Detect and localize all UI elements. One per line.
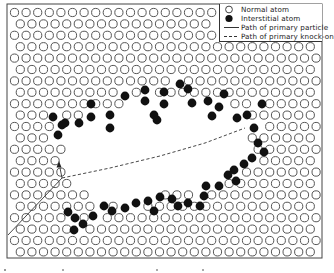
normal-atom: [306, 202, 314, 210]
normal-atom: [231, 236, 239, 244]
interstitial-atom: [202, 182, 211, 191]
normal-atom: [132, 248, 140, 256]
normal-atom: [22, 54, 30, 62]
normal-atom: [300, 100, 308, 108]
normal-atom: [16, 225, 24, 233]
interstitial-atom: [258, 100, 267, 109]
normal-atom: [28, 88, 36, 96]
normal-atom: [213, 202, 221, 210]
normal-atom: [80, 31, 88, 39]
normal-atom: [103, 100, 111, 108]
normal-atom: [306, 179, 314, 187]
normal-atom: [92, 8, 100, 16]
normal-atom: [312, 168, 320, 176]
normal-atom: [306, 248, 314, 256]
normal-atom: [190, 20, 198, 28]
normal-atom: [202, 43, 210, 51]
normal-atom: [277, 145, 285, 153]
normal-atom: [190, 248, 198, 256]
normal-atom: [312, 214, 320, 222]
normal-atom: [63, 88, 71, 96]
normal-atom: [22, 100, 30, 108]
normal-atom: [103, 77, 111, 85]
normal-atom: [266, 168, 274, 176]
normal-atom: [289, 214, 297, 222]
normal-atom: [277, 168, 285, 176]
interstitial-atom: [141, 97, 150, 106]
normal-atom: [80, 54, 88, 62]
normal-atom: [115, 236, 123, 244]
normal-atom: [300, 191, 308, 199]
legend-label: Path of primary particle: [241, 23, 328, 32]
normal-atom: [231, 54, 239, 62]
normal-atom: [161, 8, 169, 16]
normal-atom: [184, 236, 192, 244]
normal-atom: [34, 236, 42, 244]
normal-atom: [109, 248, 117, 256]
normal-atom: [283, 225, 291, 233]
normal-atom: [150, 31, 158, 39]
interstitial-atom: [224, 171, 233, 180]
normal-atom: [57, 8, 65, 16]
normal-atom: [283, 43, 291, 51]
legend-item-primary-particle: Path of primary particle: [224, 23, 322, 32]
normal-atom: [22, 236, 30, 244]
normal-atom: [300, 54, 308, 62]
normal-atom: [271, 134, 279, 142]
normal-atom: [196, 54, 204, 62]
normal-atom: [74, 65, 82, 73]
normal-atom: [74, 202, 82, 210]
normal-atom: [22, 168, 30, 176]
normal-atom: [213, 65, 221, 73]
normal-atom: [39, 157, 47, 165]
interstitial-atom: [160, 88, 169, 97]
normal-atom: [295, 202, 303, 210]
normal-atom: [34, 191, 42, 199]
normal-atom: [109, 43, 117, 51]
normal-atom: [237, 43, 245, 51]
normal-atom: [121, 43, 129, 51]
normal-atom: [295, 65, 303, 73]
normal-atom: [150, 77, 158, 85]
normal-atom: [150, 54, 158, 62]
normal-atom: [283, 134, 291, 142]
normal-atom: [57, 145, 65, 153]
normal-atom: [97, 43, 105, 51]
interstitial-atom: [150, 207, 159, 216]
normal-atom: [57, 31, 65, 39]
normal-atom: [51, 20, 59, 28]
normal-atom: [16, 157, 24, 165]
normal-atom: [155, 225, 163, 233]
normal-atom: [306, 88, 314, 96]
normal-atom: [144, 43, 152, 51]
normal-atom: [34, 145, 42, 153]
interstitial-atom: [100, 202, 109, 211]
interstitial-atom: [121, 92, 130, 101]
normal-atom: [16, 20, 24, 28]
normal-atom: [312, 54, 320, 62]
normal-atom: [208, 8, 216, 16]
normal-atom: [219, 236, 227, 244]
normal-atom: [51, 225, 59, 233]
normal-atom: [254, 214, 262, 222]
normal-atom: [10, 100, 18, 108]
normal-atom: [45, 214, 53, 222]
legend-label: Path of primary knock-on: [241, 32, 334, 41]
normal-atom: [103, 31, 111, 39]
normal-atom: [184, 31, 192, 39]
normal-atom: [237, 248, 245, 256]
normal-atom: [45, 77, 53, 85]
normal-atom: [289, 54, 297, 62]
normal-atom: [16, 88, 24, 96]
normal-atom: [208, 236, 216, 244]
normal-atom: [271, 111, 279, 119]
normal-atom: [196, 8, 204, 16]
interstitial-atom: [243, 111, 252, 120]
normal-atom: [155, 248, 163, 256]
normal-atom: [260, 157, 268, 165]
normal-atom: [68, 236, 76, 244]
normal-atom: [167, 225, 175, 233]
legend-label: Interstitial atom: [241, 14, 300, 23]
normal-atom: [138, 236, 146, 244]
interstitial-atom: [233, 114, 242, 123]
